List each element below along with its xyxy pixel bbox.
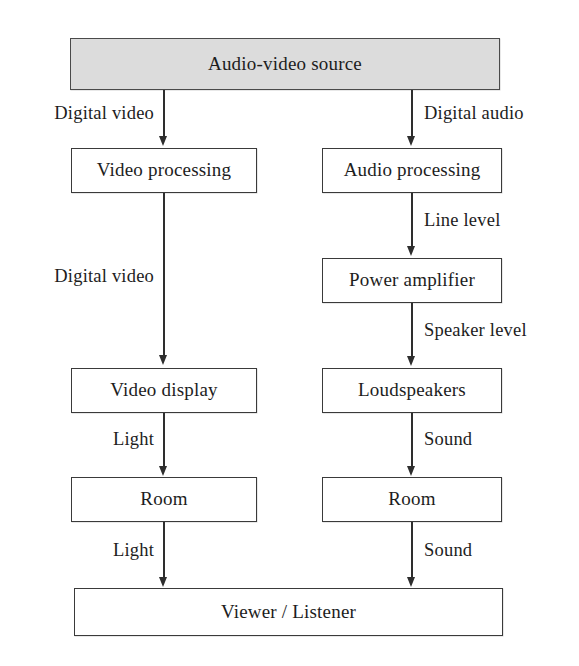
node-label-video-processing: Video processing xyxy=(97,160,232,181)
edge-label-digital-audio: Digital audio xyxy=(424,104,574,123)
node-label-power-amplifier: Power amplifier xyxy=(349,270,475,291)
edge-label-digital-video-top: Digital video xyxy=(18,104,154,123)
node-video-processing[interactable]: Video processing xyxy=(71,148,257,193)
arrowhead-source-to-video-processing xyxy=(159,136,167,146)
arrowhead-amplifier-to-loudspeakers xyxy=(407,356,415,366)
node-audio-processing[interactable]: Audio processing xyxy=(322,148,502,193)
edge-label-light-upper: Light xyxy=(18,430,154,449)
edge-label-digital-video-mid: Digital video xyxy=(18,267,154,286)
edge-video-processing-to-display xyxy=(163,193,165,356)
edge-label-line-level: Line level xyxy=(424,211,564,230)
arrowhead-source-to-audio-processing xyxy=(407,136,415,146)
node-video-display[interactable]: Video display xyxy=(71,368,257,413)
arrowhead-audio-room-to-listener xyxy=(407,577,415,587)
arrowhead-video-room-to-viewer xyxy=(159,577,167,587)
node-loudspeakers[interactable]: Loudspeakers xyxy=(322,368,502,413)
node-label-viewer-listener: Viewer / Listener xyxy=(221,602,356,623)
edge-audio-room-to-listener xyxy=(411,522,413,579)
edge-label-sound-upper: Sound xyxy=(424,430,564,449)
node-label-audio-room: Room xyxy=(388,489,435,510)
node-video-room[interactable]: Room xyxy=(71,477,257,522)
arrowhead-video-processing-to-display xyxy=(159,355,167,365)
block-diagram-canvas: Audio-video source Digital video Digital… xyxy=(0,0,579,666)
node-audio-video-source[interactable]: Audio-video source xyxy=(70,38,500,90)
edge-source-to-audio-processing xyxy=(411,90,413,138)
edge-video-room-to-viewer xyxy=(163,522,165,579)
edge-display-to-room xyxy=(163,413,165,467)
node-label-audio-processing: Audio processing xyxy=(344,160,481,181)
arrowhead-display-to-room xyxy=(159,466,167,476)
node-label-video-display: Video display xyxy=(110,380,218,401)
node-power-amplifier[interactable]: Power amplifier xyxy=(322,258,502,303)
node-audio-room[interactable]: Room xyxy=(322,477,502,522)
arrowhead-loudspeakers-to-room xyxy=(407,466,415,476)
arrowhead-audio-processing-to-amplifier xyxy=(407,246,415,256)
edge-label-sound-lower: Sound xyxy=(424,541,564,560)
node-viewer-listener[interactable]: Viewer / Listener xyxy=(74,588,503,636)
edge-amplifier-to-loudspeakers xyxy=(411,303,413,357)
edge-loudspeakers-to-room xyxy=(411,413,413,467)
edge-label-light-lower: Light xyxy=(18,541,154,560)
node-label-source: Audio-video source xyxy=(208,54,362,75)
edge-source-to-video-processing xyxy=(163,90,165,138)
edge-label-speaker-level: Speaker level xyxy=(424,321,574,340)
node-label-loudspeakers: Loudspeakers xyxy=(358,380,466,401)
node-label-video-room: Room xyxy=(140,489,187,510)
edge-audio-processing-to-amplifier xyxy=(411,193,413,247)
